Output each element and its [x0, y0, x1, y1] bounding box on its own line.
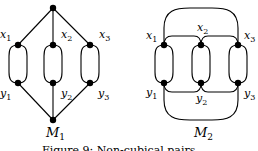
- vertex-y2: [198, 80, 204, 86]
- vertex-bottom: [50, 117, 56, 123]
- label-x3: x3: [244, 29, 255, 44]
- label-y3: y3: [243, 87, 255, 102]
- figure-canvas: x1 x2 x3 y1 y2 y3 M1 x1 x2 x3: [0, 0, 258, 151]
- label-y1: y1: [0, 87, 11, 102]
- label-x2: x2: [61, 28, 72, 43]
- vertex-x1: [161, 42, 167, 48]
- edge: [164, 36, 201, 45]
- vertex-y2: [50, 80, 56, 86]
- label-x2: x2: [197, 21, 208, 36]
- vertex-y3: [235, 80, 241, 86]
- label-y3: y3: [97, 87, 109, 102]
- label-x3: x3: [99, 28, 110, 43]
- edge: [201, 36, 238, 45]
- label-y2: y2: [195, 92, 207, 107]
- vertex-y1: [161, 80, 167, 86]
- edge: [18, 8, 53, 45]
- edge: [18, 83, 53, 120]
- graph-title-m2: M2: [193, 125, 213, 142]
- double-edge: [81, 45, 99, 83]
- vertex-y1: [15, 80, 21, 86]
- double-edge: [229, 45, 247, 83]
- double-edge: [44, 45, 62, 83]
- vertex-x3: [235, 42, 241, 48]
- vertex-x2: [50, 42, 56, 48]
- label-x1: x1: [0, 28, 11, 43]
- label-y1: y1: [145, 86, 157, 101]
- vertex-x1: [15, 42, 21, 48]
- edge: [164, 83, 201, 92]
- double-edge: [155, 45, 173, 83]
- edge: [201, 83, 238, 92]
- figure-caption: Figure 9: Non-cubical pairs: [42, 144, 196, 151]
- vertex-top: [50, 5, 56, 11]
- graph-m2: x1 x2 x3 y1 y2 y3 M2: [145, 8, 255, 142]
- graph-title-m1: M1: [45, 125, 65, 142]
- double-edge: [9, 45, 27, 83]
- label-y2: y2: [60, 87, 72, 102]
- vertex-x3: [87, 42, 93, 48]
- graph-m1: x1 x2 x3 y1 y2 y3 M1: [0, 5, 110, 142]
- label-x1: x1: [146, 29, 157, 44]
- vertex-x2: [198, 42, 204, 48]
- double-edge: [192, 45, 210, 83]
- vertex-y3: [87, 80, 93, 86]
